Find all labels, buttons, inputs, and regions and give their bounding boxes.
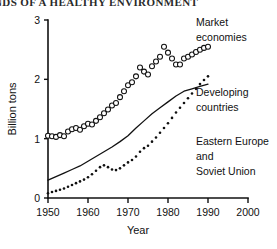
series-dot-2 xyxy=(131,159,134,162)
series-dot-2 xyxy=(63,187,66,190)
x-tick-label: 1950 xyxy=(36,206,60,218)
series-dot-2 xyxy=(151,140,154,143)
series-dot-2 xyxy=(199,83,202,86)
series-dot-2 xyxy=(203,79,206,82)
series-dot-2 xyxy=(103,164,106,167)
series-label-0: economies xyxy=(196,31,247,43)
y-tick-label: 3 xyxy=(34,14,40,26)
series-label-2: Developing xyxy=(196,86,249,98)
x-tick-label: 1990 xyxy=(196,206,220,218)
series-marker-0 xyxy=(166,50,171,55)
series-dot-2 xyxy=(79,180,82,183)
series-marker-0 xyxy=(206,44,211,49)
series-dot-2 xyxy=(111,168,114,171)
series-dot-2 xyxy=(71,184,74,187)
series-dot-2 xyxy=(91,173,94,176)
x-tick-label: 1980 xyxy=(156,206,180,218)
series-dot-2 xyxy=(119,167,122,170)
series-dot-2 xyxy=(183,102,186,105)
x-tick-label: 1960 xyxy=(76,206,100,218)
series-dot-2 xyxy=(55,190,58,193)
series-marker-0 xyxy=(62,134,67,139)
series-label-1: Soviet Union xyxy=(196,165,256,177)
series-marker-0 xyxy=(98,115,103,120)
series-marker-0 xyxy=(150,64,155,69)
series-marker-0 xyxy=(154,59,159,64)
series-dot-2 xyxy=(123,164,126,167)
x-tick-label: 2000 xyxy=(236,206,260,218)
series-dot-2 xyxy=(147,144,150,147)
chart-canvas: 0123195019601970198019902000 YearBillion… xyxy=(0,0,277,249)
series-dot-2 xyxy=(47,192,50,195)
series-dot-2 xyxy=(187,97,190,100)
series-marker-0 xyxy=(130,80,135,85)
series-dot-2 xyxy=(59,188,62,191)
series-marker-0 xyxy=(170,56,175,61)
series-dot-2 xyxy=(179,107,182,110)
series-marker-0 xyxy=(138,65,143,70)
series-marker-0 xyxy=(178,62,183,67)
series-dot-2 xyxy=(163,127,166,130)
x-tick-label: 1970 xyxy=(116,206,140,218)
series-marker-0 xyxy=(162,44,167,49)
y-tick-label: 1 xyxy=(34,133,40,145)
series-dot-2 xyxy=(51,191,54,194)
series-label-1: and xyxy=(196,150,214,162)
series-marker-0 xyxy=(114,101,119,106)
series-label-2: countries xyxy=(196,101,239,113)
series-dot-2 xyxy=(207,75,210,78)
series-dot-2 xyxy=(171,117,174,120)
series-marker-0 xyxy=(106,107,111,112)
series-dot-2 xyxy=(87,176,90,179)
chart-plot-series xyxy=(46,44,211,194)
chart-figure: 0123195019601970198019902000 YearBillion… xyxy=(0,0,277,249)
series-marker-0 xyxy=(118,95,123,100)
series-label-1: Eastern Europe xyxy=(196,135,269,147)
series-dot-2 xyxy=(75,182,78,185)
series-dot-2 xyxy=(159,131,162,134)
series-dot-2 xyxy=(83,178,86,181)
series-label-0: Market xyxy=(196,16,228,28)
series-dot-2 xyxy=(67,185,70,188)
series-marker-0 xyxy=(134,74,139,79)
y-tick-label: 0 xyxy=(34,192,40,204)
series-dot-2 xyxy=(191,92,194,95)
series-dot-2 xyxy=(127,161,130,164)
x-axis-title: Year xyxy=(127,224,150,236)
series-dot-2 xyxy=(143,147,146,150)
series-dot-2 xyxy=(95,169,98,172)
series-marker-0 xyxy=(146,72,151,77)
series-dot-2 xyxy=(167,122,170,125)
series-dot-2 xyxy=(175,111,178,114)
y-axis-title: Billion tons xyxy=(6,82,18,136)
series-dot-2 xyxy=(135,155,138,158)
series-dot-2 xyxy=(115,169,118,172)
y-tick-label: 2 xyxy=(34,73,40,85)
series-dot-2 xyxy=(155,136,158,139)
series-dot-2 xyxy=(107,166,110,169)
series-dot-2 xyxy=(99,166,102,169)
series-marker-0 xyxy=(122,89,127,94)
series-dot-2 xyxy=(139,150,142,153)
series-marker-0 xyxy=(158,54,163,59)
